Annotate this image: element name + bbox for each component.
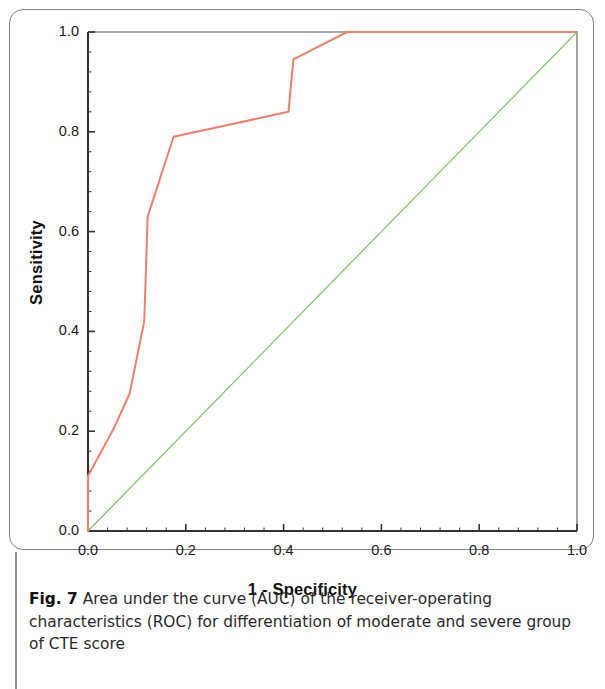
y-tick-label: 1.0 (19, 23, 79, 39)
x-tick-label: 0.6 (351, 542, 411, 558)
caption-side-rule (15, 552, 17, 689)
y-axis-title: Sensitivity (27, 183, 46, 343)
reference-diagonal-line (88, 32, 577, 531)
x-tick-label: 0.8 (449, 542, 509, 558)
caption-text: Area under the curve (AUC) of the receiv… (29, 590, 571, 653)
caption-label: Fig. 7 (29, 590, 78, 608)
x-tick-label: 0.0 (58, 542, 118, 558)
figure-root: Sensitivity 1 - Specificity 0.00.20.40.6… (0, 0, 605, 689)
y-tick-label: 0.4 (19, 322, 79, 338)
x-tick-label: 0.2 (156, 542, 216, 558)
y-tick-label: 0.2 (19, 422, 79, 438)
y-tick-label: 0.6 (19, 223, 79, 239)
y-tick-label: 0.8 (19, 123, 79, 139)
roc-chart (0, 0, 605, 560)
figure-caption: Fig. 7 Area under the curve (AUC) of the… (29, 588, 577, 656)
x-tick-label: 0.4 (254, 542, 314, 558)
y-tick-label: 0.0 (19, 522, 79, 538)
x-tick-label: 1.0 (547, 542, 605, 558)
roc-plot-svg (0, 0, 605, 560)
